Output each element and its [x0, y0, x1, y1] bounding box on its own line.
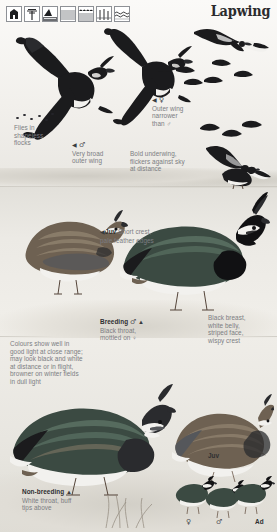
lapwing-flock-silhouettes-upper	[150, 56, 260, 96]
annotation-flies-in-shapeless-flocks: Flies in shapeless flocks	[14, 124, 62, 147]
female-symbol-icon: ♀	[186, 518, 191, 526]
colours-line-3: may look black and white	[10, 355, 102, 363]
male-symbol-icon: ♂	[216, 518, 222, 526]
annotation-juvenile: ◀Juv Short crest, pale feather edges	[100, 228, 212, 244]
left-pointer-icon: ◀	[152, 97, 157, 103]
sex-symbol-female-lower: ♀	[186, 518, 191, 527]
colours-line-4: at distance or in flight,	[10, 363, 102, 371]
breast-line-2: white belly,	[208, 322, 274, 330]
bold-underwing-line-1: Bold underwing,	[130, 150, 200, 158]
non-breeding-label: Non-breeding	[22, 488, 64, 495]
non-breeding-line-2: tips above	[22, 504, 120, 512]
lapwing-juvenile-lower-standing	[170, 390, 274, 486]
outer-wing-line-1: Outer wing	[152, 105, 210, 113]
non-breeding-line-1: White throat, buff	[22, 497, 120, 505]
annotation-breeding-male: Breeding ♂ ▲ Black throat, mottled on ♀	[100, 318, 190, 342]
outer-wing-line-2: narrower	[152, 112, 210, 120]
female-symbol-icon: ♀	[159, 96, 164, 104]
annotation-non-breeding: Non-breeding ▲ White throat, buff tips a…	[22, 488, 120, 512]
annotation-outer-wing-narrower: ◀ ♀ Outer wing narrower than ♂	[152, 96, 210, 127]
left-pointer-icon: ◀	[72, 142, 77, 148]
building-habitat-icon	[6, 6, 22, 22]
very-broad-marker-row: ◀ ♂	[72, 141, 124, 150]
colours-line-5: browner on winter fields	[10, 370, 102, 378]
lapwing-juvenile-standing	[10, 196, 128, 302]
outer-wing-line-3: than ♂	[152, 120, 210, 128]
marsh-habitat-icon	[78, 6, 94, 22]
colours-line-2: good light at close range;	[10, 348, 102, 356]
breast-line-1: Black breast,	[208, 314, 274, 322]
juv-label: Juv	[105, 228, 116, 235]
annotation-adult-lower: Ad	[255, 518, 275, 526]
breeding-header-row: Breeding ♂ ▲	[100, 318, 190, 327]
breast-line-3: striped face,	[208, 329, 274, 337]
colours-line-1: Colours show well in	[10, 340, 102, 348]
male-symbol-icon: ♂	[79, 141, 85, 149]
annotation-bold-underwing: Bold underwing, flickers against sky at …	[130, 150, 200, 173]
annotation-breast-and-crest: Black breast, white belly, striped face,…	[208, 314, 274, 344]
bold-underwing-line-2: flickers against sky	[130, 158, 200, 166]
very-broad-line-1: Very broad	[72, 150, 124, 158]
juv-lower-label: Juv	[208, 452, 219, 459]
juv-text: Short crest,	[118, 228, 151, 235]
breeding-line-2: mottled on ♀	[100, 334, 190, 342]
ad-lower-label: Ad	[255, 518, 264, 525]
juv-line-2: pale feather edges	[100, 237, 212, 245]
very-broad-line-2: outer wing	[72, 157, 124, 165]
outer-wing-marker-row: ◀ ♀	[152, 96, 210, 105]
male-symbol-icon: ♂	[130, 318, 136, 326]
breeding-label: Breeding	[100, 318, 128, 325]
annotation-colours: Colours show well in good light at close…	[10, 340, 102, 386]
lapwing-small-standing-trio	[172, 476, 272, 524]
breeding-line-1: Black throat,	[100, 327, 190, 335]
bold-underwing-line-3: at distance	[130, 165, 200, 173]
juv-line-1: ◀Juv Short crest,	[100, 228, 212, 237]
farmland-habitat-icon	[60, 6, 76, 22]
page-title: Lapwing	[210, 2, 270, 20]
flock-line-2: shapeless	[14, 132, 62, 140]
field-guide-page: Lapwing	[0, 0, 277, 532]
sex-symbol-male-lower: ♂	[216, 518, 222, 527]
flock-line-3: flocks	[14, 139, 62, 147]
annotation-juvenile-lower: Juv	[208, 452, 248, 460]
non-breeding-header-row: Non-breeding ▲	[22, 488, 120, 497]
lapwing-standing-distant	[214, 158, 260, 190]
tree-habitat-icon	[24, 6, 40, 22]
up-pointer-icon: ▲	[138, 319, 144, 325]
flock-line-1: Flies in	[14, 124, 62, 132]
cliff-coast-habitat-icon	[42, 6, 58, 22]
breast-line-4: wispy crest	[208, 337, 274, 345]
annotation-very-broad-outer-wing: ◀ ♂ Very broad outer wing	[72, 141, 124, 165]
lapwing-breeding-male-standing	[118, 190, 270, 318]
up-pointer-icon: ▲	[66, 489, 72, 495]
